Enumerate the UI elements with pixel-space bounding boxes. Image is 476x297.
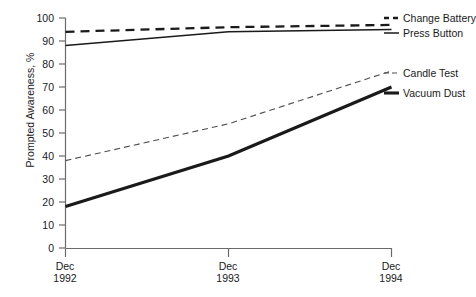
x-tick-month-0: Dec — [42, 261, 88, 273]
y-tick-label-50: 50 — [28, 128, 54, 139]
series-line-candle-test — [66, 71, 392, 161]
x-axis-ticks — [66, 249, 392, 258]
y-tick-label-30: 30 — [28, 174, 54, 185]
legend-label-candle-test: Candle Test — [403, 68, 458, 79]
x-tick-year-1: 1993 — [205, 273, 251, 285]
x-tick-year-2: 1994 — [368, 273, 414, 285]
x-tick-label-dec-1992: Dec 1992 — [42, 261, 88, 284]
y-axis-ticks — [59, 18, 66, 248]
y-tick-label-70: 70 — [28, 82, 54, 93]
x-tick-year-0: 1992 — [42, 273, 88, 285]
x-tick-label-dec-1994: Dec 1994 — [368, 261, 414, 284]
y-tick-label-40: 40 — [28, 151, 54, 162]
x-tick-label-dec-1993: Dec 1993 — [205, 261, 251, 284]
legend-label-vacuum-dust: Vacuum Dust — [403, 88, 465, 99]
x-tick-month-1: Dec — [205, 261, 251, 273]
series-line-press-button — [66, 30, 392, 46]
y-tick-label-10: 10 — [28, 220, 54, 231]
series-line-vacuum-dust — [66, 87, 392, 207]
y-tick-label-20: 20 — [28, 197, 54, 208]
x-tick-month-2: Dec — [368, 261, 414, 273]
y-tick-label-60: 60 — [28, 105, 54, 116]
legend-label-press-button: Press Button — [403, 28, 463, 39]
y-tick-label-100: 100 — [28, 13, 54, 24]
y-tick-label-90: 90 — [28, 36, 54, 47]
y-tick-label-80: 80 — [28, 59, 54, 70]
legend-label-change-battery: Change Battery — [403, 13, 476, 24]
y-tick-label-0: 0 — [28, 243, 54, 254]
